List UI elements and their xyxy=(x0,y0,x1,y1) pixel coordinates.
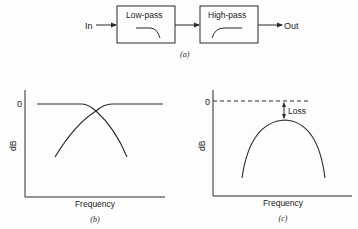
loss-label: Loss xyxy=(288,106,306,116)
bandpass-curve xyxy=(242,120,325,178)
panel-b-xlabel: Frequency xyxy=(75,199,116,209)
panel-c-xlabel: Frequency xyxy=(263,198,304,208)
panel-c-caption: (c) xyxy=(279,214,288,223)
panel-c-zero-label: 0 xyxy=(205,97,210,107)
output-label: Out xyxy=(284,21,299,31)
highpass-curve xyxy=(55,104,163,157)
panel-c-chart: 0 dB Loss Frequency (c) xyxy=(197,90,352,223)
lowpass-curve xyxy=(37,104,127,157)
panel-a-caption: (a) xyxy=(180,50,190,59)
panel-b-ylabel: dB xyxy=(8,140,18,151)
panel-c-ylabel: dB xyxy=(197,140,207,151)
lowpass-block-label: Low-pass xyxy=(126,10,162,20)
filter-diagram: In Low-pass High-pass Out (a) 0 dB Frequ… xyxy=(0,0,358,229)
highpass-response-icon xyxy=(212,28,242,38)
panel-b-chart: 0 dB Frequency (b) xyxy=(8,90,165,224)
panel-a-block-diagram: In Low-pass High-pass Out (a) xyxy=(85,6,299,59)
highpass-block-label: High-pass xyxy=(208,10,246,20)
panel-b-zero-label: 0 xyxy=(17,99,22,109)
input-label: In xyxy=(85,21,93,31)
panel-b-caption: (b) xyxy=(90,215,100,224)
lowpass-response-icon xyxy=(136,28,160,38)
